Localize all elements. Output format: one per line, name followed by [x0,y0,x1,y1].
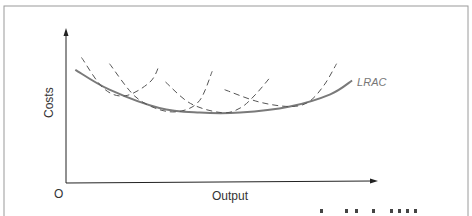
chart-border [4,6,468,216]
origin-label: O [54,187,63,201]
curve-srac3 [166,76,272,113]
x-axis-label: Output [212,189,249,203]
x-axis [66,181,372,183]
y-axis-arrow [64,28,69,36]
footer-text-fragment [320,209,417,213]
curve-srac1 [82,58,160,97]
y-axis-label: Costs [42,87,56,118]
curve-srac2 [110,64,213,112]
chart: O Output Costs LRAC [0,0,472,216]
x-axis-arrow [370,179,378,184]
curve-srac4 [225,64,337,107]
lrac-label: LRAC [357,76,386,88]
curves-group [75,58,352,114]
curve-lrac [75,70,352,113]
